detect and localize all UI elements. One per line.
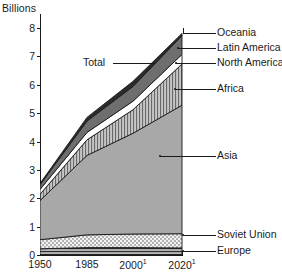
chart-figure: Billions 876543210 195019852000120201 xyxy=(0,0,282,277)
y-tick-label-1: 1 xyxy=(19,221,35,233)
annotation-soviet-union: Soviet Union xyxy=(217,229,277,240)
y-tick-label-2: 2 xyxy=(19,192,35,204)
plot-area xyxy=(40,14,183,255)
leader-soviet-union-dot xyxy=(182,234,184,236)
leader-asia xyxy=(160,156,216,157)
y-tick-label-5: 5 xyxy=(19,107,35,119)
leader-europe xyxy=(183,251,216,252)
leader-total xyxy=(113,63,155,64)
leader-north-america xyxy=(176,63,216,64)
y-axis-title: Billions xyxy=(2,2,36,14)
y-tick-label-4: 4 xyxy=(19,136,35,148)
leader-africa-dot xyxy=(174,88,176,90)
x-tick-label-1950: 1950 xyxy=(28,258,51,270)
annotation-north-america: North America xyxy=(217,57,282,68)
area-band-europe xyxy=(40,248,182,255)
x-axis-line xyxy=(40,255,183,256)
leader-latin-america-dot xyxy=(177,47,179,49)
annotation-europe: Europe xyxy=(217,245,251,256)
leader-soviet-union xyxy=(183,235,216,236)
annotation-asia: Asia xyxy=(217,150,237,161)
x-tick-label-2000: 20001 xyxy=(119,258,146,271)
annotation-latin-america: Latin America xyxy=(217,42,281,53)
leader-oceania-tick xyxy=(183,28,184,34)
leader-north-america-dot xyxy=(175,62,177,64)
leader-asia-dot xyxy=(159,155,161,157)
stacked-area-series xyxy=(40,14,183,255)
annotation-total: Total xyxy=(83,57,105,68)
y-tick-label-7: 7 xyxy=(19,50,35,62)
leader-latin-america xyxy=(178,48,216,49)
x-tick-label-1985: 1985 xyxy=(75,258,98,270)
y-tick-label-6: 6 xyxy=(19,79,35,91)
x-tick-label-2020: 20201 xyxy=(168,258,195,271)
leader-africa xyxy=(175,89,216,90)
y-tick-label-3: 3 xyxy=(19,164,35,176)
annotation-africa: Africa xyxy=(217,83,244,94)
leader-oceania xyxy=(183,33,216,34)
annotation-oceania: Oceania xyxy=(217,27,256,38)
y-tick-label-8: 8 xyxy=(19,22,35,34)
leader-europe-dot xyxy=(182,250,184,252)
